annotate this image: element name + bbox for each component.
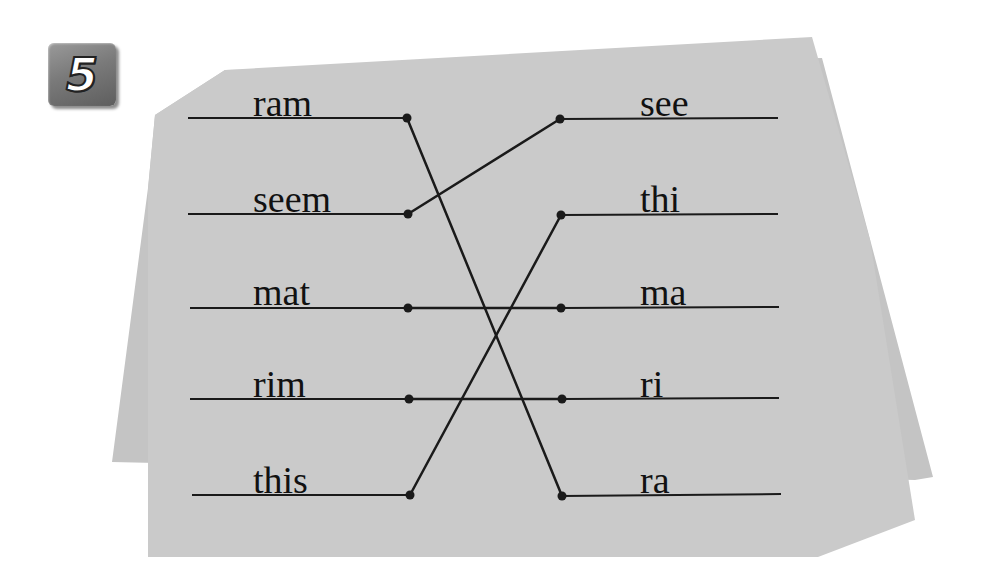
dot-left-mat [404,304,413,313]
dot-left-seem [404,210,413,219]
right-word-ma: ma [640,273,686,311]
right-word-ra: ra [640,461,670,499]
dot-right-ra [558,492,567,501]
right-word-thi: thi [640,180,680,218]
exercise-number: 5 [66,52,98,98]
dot-right-thi [557,211,566,220]
dot-right-see [556,115,565,124]
worksheet-paper [0,0,990,570]
dot-left-ram [403,114,412,123]
left-word-seem: seem [253,180,331,218]
left-word-ram: ram [253,84,312,122]
dot-right-ri [558,395,567,404]
dot-left-this [406,491,415,500]
matching-exercise: 5 ram seem mat rim this see thi ma ri ra [0,0,990,570]
left-word-this: this [253,461,308,499]
dot-left-rim [405,395,414,404]
right-word-ri: ri [640,365,663,403]
exercise-number-badge: 5 [48,43,116,106]
left-word-mat: mat [253,273,310,311]
left-word-rim: rim [253,365,306,403]
dot-right-ma [557,304,566,313]
right-word-see: see [640,84,689,122]
